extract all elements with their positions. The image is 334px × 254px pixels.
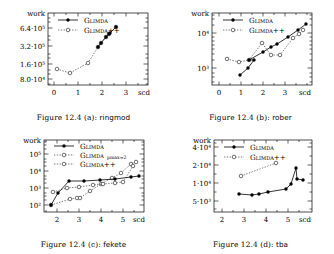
x-axis-label: scd: [138, 89, 151, 97]
x-axis-label: scd: [133, 216, 146, 224]
chart-c: 10² 10³ 10⁴ 10⁵ work 2 3 4 5 scd: [0, 127, 167, 254]
y-tick-label: 3.2·10⁵: [20, 43, 45, 51]
series-glimda-pp-d: [239, 161, 278, 178]
figure-grid: 8.0·10⁴ 1.6·10⁵ 3.2·10⁵ 6.4·10⁵ work 0 1…: [0, 0, 334, 254]
caption-name: ringmod: [100, 113, 131, 122]
y-tick-label: 2·10⁴: [193, 162, 212, 170]
x-tick-label: 3: [124, 89, 128, 97]
figure-panel-b: 10³ 10⁴ work 0 1 2 3 scd: [167, 0, 334, 127]
x-axis-label: scd: [299, 216, 312, 224]
chart-c-svg: 10² 10³ 10⁴ 10⁵ work 2 3 4 5 scd: [0, 127, 167, 232]
y-tick-label: 1.6·10⁵: [20, 61, 45, 69]
caption-prefix: Figure 12.4 (d):: [213, 240, 274, 249]
legend-label-glimda: Glimda: [250, 143, 274, 152]
series-glimda-c: [49, 174, 140, 206]
x-axis-label: scd: [299, 89, 312, 97]
y-axis-label: work: [193, 137, 212, 145]
x-tick-label: 2: [220, 216, 224, 224]
chart-a: 8.0·10⁴ 1.6·10⁵ 3.2·10⁵ 6.4·10⁵ work 0 1…: [0, 0, 167, 127]
legend-label-glimda-pp: Glimda++: [249, 26, 285, 35]
legend-c: Glimda Glimda pmax=2 Glimda++: [54, 142, 126, 169]
caption-name: fekete: [103, 240, 126, 249]
x-tick-label: 2: [55, 216, 59, 224]
caption-name: tba: [276, 240, 288, 249]
y-tick-label: 10³: [197, 65, 209, 73]
caption-name: rober: [272, 113, 292, 122]
chart-b-svg: 10³ 10⁴ work 0 1 2 3 scd: [167, 0, 334, 105]
y-tick-label: 8.0·10⁴: [20, 76, 45, 84]
x-tick-label: 0: [52, 89, 56, 97]
legend-label-glimda-pmax: Glimda: [80, 151, 104, 160]
legend-label-glimda: Glimda: [84, 16, 108, 25]
x-tick-label: 5: [121, 216, 125, 224]
x-tick-label: 3: [242, 216, 246, 224]
y-axis-label: work: [27, 10, 46, 18]
y-axis-label: work: [23, 137, 42, 145]
legend-b: Glimda Glimda++: [223, 16, 285, 35]
legend-label-glimda-pp: Glimda++: [84, 26, 120, 35]
chart-b: 10³ 10⁴ work 0 1 2 3 scd: [167, 0, 334, 127]
legend-label-glimda-pp: Glimda++: [80, 160, 116, 169]
y-tick-label: 5·10³: [193, 198, 212, 206]
legend-label-glimda: Glimda: [80, 142, 104, 151]
x-tick-label: 3: [283, 89, 287, 97]
caption-prefix: Figure 12.4 (c):: [41, 240, 101, 249]
caption-prefix: Figure 12.4 (b):: [209, 113, 270, 122]
x-tick-label: 1: [239, 89, 243, 97]
chart-a-svg: 8.0·10⁴ 1.6·10⁵ 3.2·10⁵ 6.4·10⁵ work 0 1…: [0, 0, 167, 105]
chart-d-svg: 5·10³ 1·10⁴ 2·10⁴ 4·10⁴ work 2 3 4 5 scd: [167, 127, 334, 232]
figure-caption-b: Figure 12.4 (b): rober: [167, 113, 334, 122]
y-tick-label: 10³: [29, 185, 41, 193]
x-tick-label: 1: [76, 89, 80, 97]
x-tick-label: 4: [264, 216, 269, 224]
y-tick-label: 10⁴: [197, 30, 209, 38]
y-axis-label: work: [191, 10, 210, 18]
series-glimda-d: [237, 166, 304, 196]
x-tick-label: 4: [99, 216, 104, 224]
legend-d: Glimda Glimda++: [224, 143, 286, 162]
y-tick-label: 1·10⁴: [193, 180, 212, 188]
figure-panel-d: 5·10³ 1·10⁴ 2·10⁴ 4·10⁴ work 2 3 4 5 scd: [167, 127, 334, 254]
legend-label-glimda: Glimda: [249, 16, 273, 25]
caption-prefix: Figure 12.4 (a):: [37, 113, 97, 122]
figure-caption-a: Figure 12.4 (a): ringmod: [0, 113, 167, 122]
y-tick-label: 10⁵: [29, 151, 41, 159]
figure-panel-c: 10² 10³ 10⁴ 10⁵ work 2 3 4 5 scd: [0, 127, 167, 254]
chart-d: 5·10³ 1·10⁴ 2·10⁴ 4·10⁴ work 2 3 4 5 scd: [167, 127, 334, 254]
figure-caption-c: Figure 12.4 (c): fekete: [0, 240, 167, 249]
legend-a: Glimda Glimda++: [58, 16, 120, 35]
x-tick-label: 3: [77, 216, 81, 224]
x-tick-label: 5: [286, 216, 290, 224]
figure-caption-d: Figure 12.4 (d): tba: [167, 240, 334, 249]
figure-panel-a: 8.0·10⁴ 1.6·10⁵ 3.2·10⁵ 6.4·10⁵ work 0 1…: [0, 0, 167, 127]
x-tick-label: 0: [217, 89, 221, 97]
y-tick-label: 10²: [29, 202, 41, 210]
x-tick-label: 2: [100, 89, 104, 97]
x-tick-label: 2: [261, 89, 265, 97]
legend-label-glimda-pp: Glimda++: [250, 153, 286, 162]
y-tick-label: 10⁴: [29, 168, 41, 176]
y-tick-label: 6.4·10⁵: [20, 25, 45, 33]
